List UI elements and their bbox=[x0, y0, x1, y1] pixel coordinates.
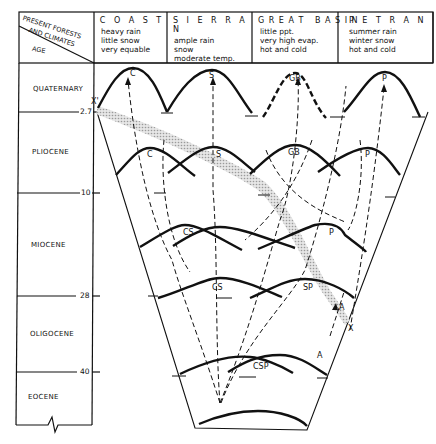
stippled-migration-band bbox=[96, 106, 350, 325]
column-line: snow bbox=[174, 45, 252, 54]
header-corner: PRESENT FORESTS AND CLIMATES AGE bbox=[22, 14, 94, 62]
column-line: little snow bbox=[101, 36, 167, 45]
column-line: summer rain bbox=[349, 27, 433, 36]
marker-x-prime: X' bbox=[91, 97, 99, 106]
age-label-pliocene: PLIOCENE bbox=[32, 148, 69, 156]
column-line: winter snow bbox=[349, 36, 433, 45]
curve-label-q-petran: P bbox=[382, 74, 387, 83]
curve-label-o-cs: CS bbox=[212, 283, 223, 292]
column-line: heavy rain bbox=[101, 27, 167, 36]
column-line: very equable bbox=[101, 45, 167, 54]
header-col-great-basin: G R E A T B A S I N little ppt. very hig… bbox=[255, 16, 338, 54]
petran-lineage-line bbox=[350, 88, 384, 330]
curve-label-q-sierran: S bbox=[209, 71, 214, 80]
age-label-miocene: MIOCENE bbox=[31, 241, 66, 249]
column-line: hot and cold bbox=[349, 45, 433, 54]
boundary-40: 40 bbox=[79, 367, 91, 376]
curve-label-p-petran: P bbox=[365, 150, 370, 159]
column-line: little ppt. bbox=[260, 27, 338, 36]
column-title: G R E A T B A S I N bbox=[258, 16, 338, 25]
column-title: S I E R R A N bbox=[173, 16, 252, 34]
curve-label-q-great-basin: GB bbox=[289, 74, 301, 83]
column-line: very high evap. bbox=[260, 36, 338, 45]
curve-label-q-coast: C bbox=[130, 69, 136, 78]
column-line: ample rain bbox=[174, 36, 252, 45]
trapezoid-outline bbox=[97, 112, 428, 430]
column-line: hot and cold bbox=[260, 45, 338, 54]
boundary-2-7: 2.7 bbox=[79, 107, 93, 116]
curve-label-e-csp: CSP bbox=[253, 362, 269, 371]
marker-a-lower: A bbox=[317, 351, 322, 360]
curve-label-p-great-basin: GB bbox=[288, 148, 300, 157]
boundary-10: 10 bbox=[80, 188, 92, 197]
column-title: P E T R A N bbox=[349, 16, 433, 25]
quaternary-curves bbox=[98, 68, 420, 118]
age-label-oligocene: OLIGOCENE bbox=[30, 330, 74, 338]
curve-label-p-coast: C bbox=[147, 150, 153, 159]
age-label-eocene: EOCENE bbox=[28, 393, 59, 401]
marker-x: X bbox=[348, 324, 353, 333]
column-line: moderate temp. bbox=[174, 54, 252, 63]
pliocene-curves bbox=[116, 145, 400, 176]
header-col-sierran: S I E R R A N ample rain snow moderate t… bbox=[170, 16, 252, 63]
lineage-dashed-lines bbox=[128, 80, 361, 403]
header-col-coast: C O A S T heavy rain little snow very eq… bbox=[97, 16, 167, 54]
curve-label-o-sp: SP bbox=[303, 283, 313, 292]
curve-label-m-cs: CS bbox=[183, 228, 194, 237]
age-label-quaternary: QUATERNARY bbox=[33, 85, 83, 93]
forest-evolution-diagram bbox=[0, 0, 436, 444]
boundary-28: 28 bbox=[79, 291, 91, 300]
header-col-petran: P E T R A N summer rain winter snow hot … bbox=[341, 16, 433, 54]
marker-a-upper: A bbox=[339, 303, 344, 312]
curve-label-m-petran: P bbox=[329, 228, 334, 237]
curve-label-p-sierran: S bbox=[216, 150, 221, 159]
arrow-icon bbox=[125, 77, 131, 85]
corner-label-age: AGE bbox=[31, 45, 46, 55]
column-title: C O A S T bbox=[97, 16, 167, 25]
